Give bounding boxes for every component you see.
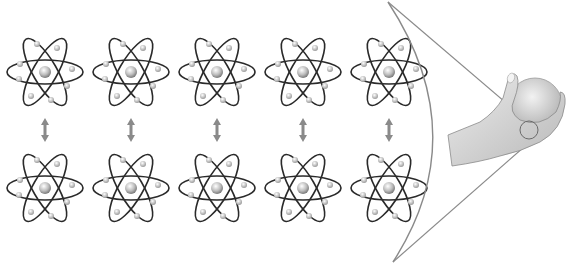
atom-icon — [93, 33, 169, 111]
double-arrow-icon — [41, 118, 49, 142]
atoms-magnification-diagram — [0, 0, 569, 271]
double-arrow-icon — [127, 118, 135, 142]
double-arrow-icon — [299, 118, 307, 142]
double-arrow-icon — [213, 118, 221, 142]
double-arrow-icon — [385, 118, 393, 142]
arrows-group — [41, 118, 393, 142]
atom-icon — [7, 149, 83, 227]
atom-icon — [179, 149, 255, 227]
atom-icon — [179, 33, 255, 111]
atom-icon — [351, 33, 427, 111]
atom-icon — [7, 33, 83, 111]
hand-holding-ball — [448, 72, 565, 166]
atom-icon — [93, 149, 169, 227]
magnification-arc — [388, 2, 433, 262]
diagram-canvas — [0, 0, 569, 271]
atom-icon — [265, 33, 341, 111]
atom-icon — [265, 149, 341, 227]
atom-icon — [351, 149, 427, 227]
